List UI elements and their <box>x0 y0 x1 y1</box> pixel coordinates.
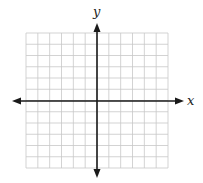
y-axis-label: y <box>92 4 101 19</box>
x-axis-left-arrow-icon <box>12 98 21 105</box>
coordinate-plane: y x <box>0 0 203 183</box>
x-axis-right-arrow-icon <box>175 98 184 105</box>
x-axis-label: x <box>187 93 195 108</box>
y-axis-down-arrow-icon <box>94 169 101 178</box>
y-axis-up-arrow-icon <box>94 23 101 32</box>
